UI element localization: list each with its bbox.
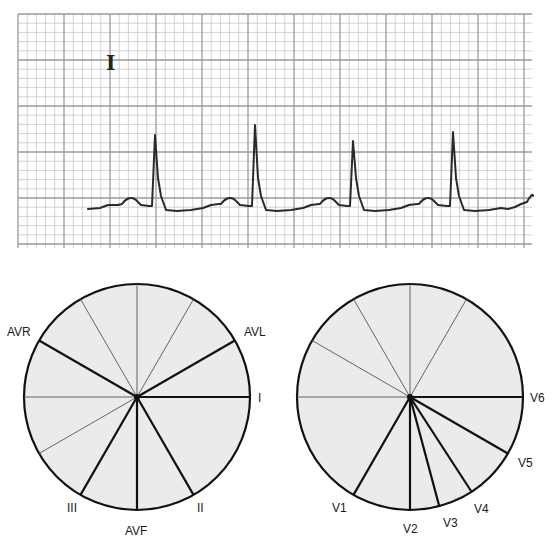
- ecg-figure: I I AVL AVR II III AVF V6 V5 V4 V3 V2 V1: [0, 0, 560, 547]
- lead-label-v6: V6: [530, 391, 545, 405]
- lead-label-v4: V4: [474, 502, 489, 516]
- precordial-leads-diagram: V6 V5 V4 V3 V2 V1: [297, 284, 545, 536]
- lead-label-ii: II: [197, 501, 204, 515]
- lead-label-avr: AVR: [7, 325, 31, 339]
- lead-label-i: I: [258, 391, 261, 405]
- lead-label-avl: AVL: [244, 325, 266, 339]
- ecg-lead-label: I: [106, 51, 115, 75]
- lead-label-avf: AVF: [125, 524, 147, 538]
- ecg-grid-minor: [18, 14, 532, 248]
- limb-leads-hexaxial-diagram: I AVL AVR II III AVF: [7, 284, 266, 538]
- lead-label-v2: V2: [403, 522, 418, 536]
- lead-label-v3: V3: [443, 516, 458, 530]
- precordial-center-dot: [407, 394, 413, 400]
- lead-label-v5: V5: [518, 456, 533, 470]
- ecg-strip-lead-i: I: [18, 14, 533, 248]
- lead-label-iii: III: [67, 501, 77, 515]
- limb-center-dot: [134, 394, 140, 400]
- lead-label-v1: V1: [332, 501, 347, 515]
- ecg-grid-major: [18, 14, 532, 248]
